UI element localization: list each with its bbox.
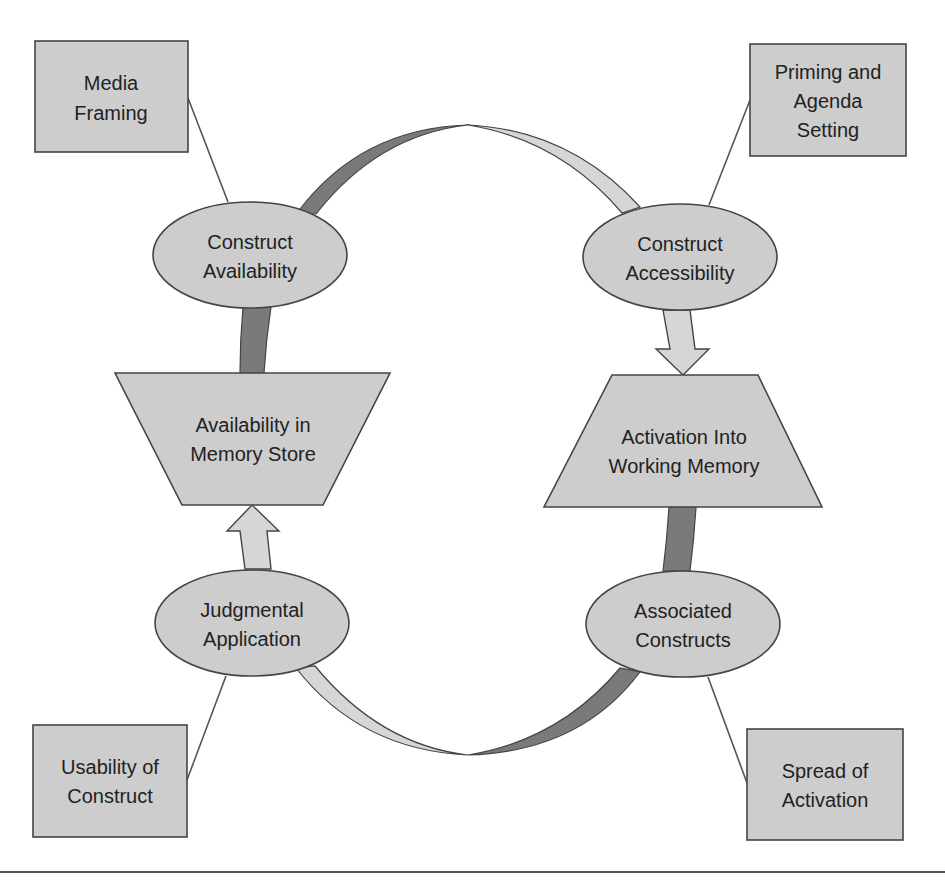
box-usability-line2: Construct: [67, 785, 153, 807]
construct-cycle-diagram: Media Framing Priming and Agenda Setting…: [0, 0, 945, 887]
trapezoid-activation-line1: Activation Into: [621, 426, 747, 448]
ellipse-judgmental-line2: Application: [203, 628, 301, 650]
trapezoid-activation-working-memory: Activation Into Working Memory: [544, 375, 822, 507]
box-media-framing-line2: Framing: [74, 102, 147, 124]
box-media-framing-line1: Media: [84, 72, 139, 94]
bottom-arc-dark-band: [468, 668, 640, 755]
top-arc-dark-band: [297, 125, 468, 214]
ellipse-construct-accessibility: Construct Accessibility: [583, 204, 777, 310]
box-spread-line2: Activation: [782, 789, 869, 811]
bottom-divider-rule: [0, 871, 945, 873]
up-arrow-icon: [227, 505, 279, 569]
box-priming-line1: Priming and: [775, 61, 882, 83]
box-priming-line3: Setting: [797, 119, 859, 141]
connector-usability: [187, 676, 226, 780]
ellipse-associated-line1: Associated: [634, 600, 732, 622]
ellipse-associated-line2: Constructs: [635, 629, 731, 651]
trapezoid-availability-line1: Availability in: [195, 414, 310, 436]
connector-priming: [709, 100, 750, 205]
box-priming-agenda-setting: Priming and Agenda Setting: [750, 44, 906, 156]
trapezoid-activation-line2: Working Memory: [609, 455, 760, 477]
bottom-arc-light-band: [296, 666, 468, 755]
box-media-framing: Media Framing: [35, 41, 188, 152]
box-usability-of-construct: Usability of Construct: [33, 725, 187, 837]
box-priming-line2: Agenda: [794, 90, 864, 112]
ellipse-accessibility-line2: Accessibility: [626, 262, 735, 284]
trapezoid-availability-memory-store: Availability in Memory Store: [115, 373, 390, 505]
box-usability-line1: Usability of: [61, 756, 159, 778]
down-arrow-icon: [656, 310, 709, 375]
connector-spread: [708, 677, 747, 783]
ellipse-associated-constructs: Associated Constructs: [586, 571, 780, 677]
ellipse-availability-line1: Construct: [207, 231, 293, 253]
ellipse-accessibility-line1: Construct: [637, 233, 723, 255]
ellipse-judgmental-line1: Judgmental: [200, 599, 303, 621]
right-vertical-band: [663, 507, 696, 571]
left-vertical-band: [240, 307, 271, 373]
ellipse-construct-availability: Construct Availability: [153, 202, 347, 308]
box-spread-of-activation: Spread of Activation: [747, 729, 903, 840]
ellipse-availability-line2: Availability: [203, 260, 297, 282]
top-arc-light-band: [468, 125, 640, 213]
connector-media-framing: [188, 98, 228, 202]
trapezoid-availability-line2: Memory Store: [190, 443, 316, 465]
ellipse-judgmental-application: Judgmental Application: [155, 570, 349, 676]
box-spread-line1: Spread of: [782, 760, 869, 782]
